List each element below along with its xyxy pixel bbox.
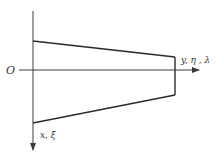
trapezoid-bottom-edge bbox=[33, 95, 175, 123]
trapezoid-top-edge bbox=[33, 41, 175, 57]
trapezoid-diagram: O y, η , λ x, ξ bbox=[0, 0, 219, 159]
horizontal-axis-label: y, η , λ bbox=[180, 55, 210, 65]
origin-label: O bbox=[6, 64, 15, 77]
vertical-axis-label: x, ξ bbox=[40, 130, 57, 140]
